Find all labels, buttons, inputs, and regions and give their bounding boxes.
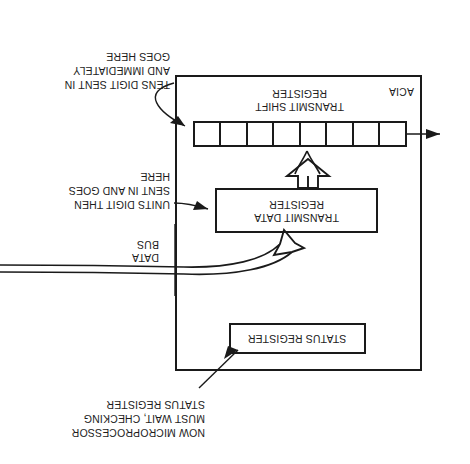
acia-diagram-figure: ACIA STATUS REGISTER TRANSMIT DATA REGIS… bbox=[0, 0, 470, 464]
transmit-data-register-label: TRANSMIT DATA REGISTER bbox=[219, 198, 374, 224]
transmit-shift-register-label: TRANSMIT SHIFT REGISTER bbox=[217, 87, 382, 113]
data-bus-rails bbox=[0, 265, 184, 274]
shift-register-cell bbox=[299, 123, 326, 145]
shift-register-cell bbox=[195, 123, 220, 145]
data-bus-label: DATA BUS bbox=[132, 238, 159, 264]
shift-register-cell bbox=[326, 123, 353, 145]
rotated-diagram-canvas: ACIA STATUS REGISTER TRANSMIT DATA REGIS… bbox=[0, 0, 470, 464]
status-register-annotation: NOW MICROPROCESSOR MUST WAIT, CHECKING S… bbox=[72, 398, 205, 440]
transmit-shift-register-box bbox=[193, 121, 407, 147]
status-register-label: STATUS REGISTER bbox=[236, 333, 358, 346]
shift-register-cell bbox=[246, 123, 273, 145]
shift-register-cell bbox=[220, 123, 247, 145]
shift-register-cell bbox=[379, 123, 406, 145]
tens-digit-annotation: TENS DIGIT SENT IN AND IMMEDIATELY GOES … bbox=[64, 50, 170, 92]
units-digit-annotation: UNITS DIGIT THEN SENT IN AND GOES HERE bbox=[69, 170, 170, 212]
shift-register-cell bbox=[273, 123, 300, 145]
acia-enclosure-label: ACIA bbox=[389, 86, 414, 99]
shift-register-cell bbox=[352, 123, 379, 145]
